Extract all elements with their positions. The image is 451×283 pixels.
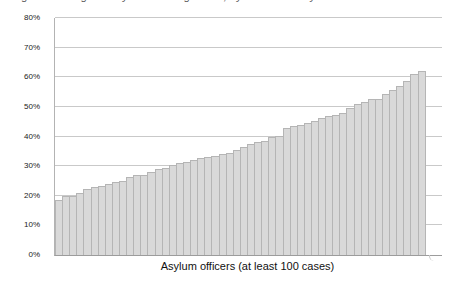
figure-caption-clipped: Fig. Percentage of asylum cases granted,… [12,0,442,2]
y-axis-tick-label: 50% [24,103,40,111]
y-axis-tick-label: 30% [24,162,40,170]
chart-plot-area [54,18,442,256]
y-axis-tick-label: 80% [24,14,40,22]
y-axis-tick-label: 70% [24,44,40,52]
y-axis-tick-label: 20% [24,192,40,200]
x-axis-label: Asylum officers (at least 100 cases) [54,260,441,272]
y-axis-tick-label: 60% [24,73,40,81]
y-axis-tick-label: 40% [24,133,40,141]
figure-container: Fig. Percentage of asylum cases granted,… [0,0,451,283]
y-axis-tick-label: 0% [28,251,40,259]
bar [418,71,426,255]
y-axis-tick-labels: 0%10%20%30%40%50%60%70%80% [0,18,46,255]
y-axis-tick-label: 10% [24,221,40,229]
bars-container [55,18,426,255]
